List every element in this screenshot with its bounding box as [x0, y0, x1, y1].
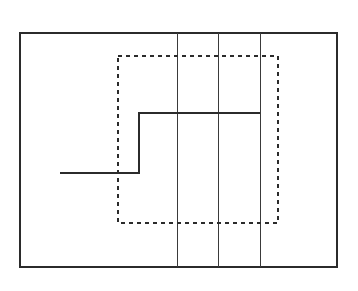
step-function-diagram [0, 0, 358, 291]
figure-panel: B [0, 0, 358, 291]
plot-background [0, 0, 358, 291]
